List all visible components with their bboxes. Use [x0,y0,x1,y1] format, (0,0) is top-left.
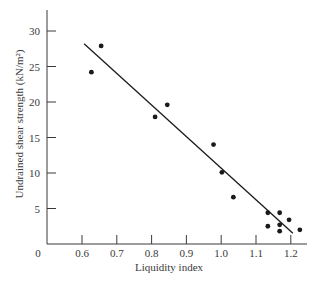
data-point [277,210,282,215]
scatter-chart: 51015202530 0.60.70.80.91.01.11.2 0 Liqu… [0,0,317,285]
y-axis-label: Undrained shear strength (kN/m²) [13,49,26,198]
data-point [265,210,270,215]
y-tick-label: 15 [29,132,41,144]
y-ticks: 51015202530 [29,25,56,215]
y-tick-label: 20 [29,96,41,108]
data-point [277,229,282,234]
data-point [277,222,282,227]
y-tick-label: 5 [35,203,41,215]
data-point [297,227,302,232]
x-tick-label: 0.8 [145,247,159,259]
y-tick-label: 10 [29,167,41,179]
data-point [211,142,216,147]
y-tick-label: 25 [29,61,41,73]
data-point [165,102,170,107]
plot-area: 51015202530 0.60.70.80.91.01.11.2 0 [29,10,307,259]
data-point [219,170,224,175]
x-tick-label: 1.0 [214,247,228,259]
x-tick-label: 1.2 [284,247,298,259]
y-tick-label: 30 [29,25,41,37]
x-tick-label: 0.9 [180,247,194,259]
x-ticks: 0.60.70.80.91.01.11.2 [75,235,298,259]
data-point [287,217,292,222]
data-point [99,44,104,49]
best-fit-line [84,44,293,234]
data-point [153,115,158,120]
fit-line-segment [84,44,293,234]
data-point [265,224,270,229]
data-point [89,70,94,75]
x-tick-label: 0.6 [75,247,89,259]
origin-label: 0 [35,247,41,259]
x-tick-label: 1.1 [249,247,263,259]
data-points [89,44,302,234]
x-axis-label: Liquidity index [135,261,204,273]
x-tick-label: 0.7 [110,247,124,259]
data-point [231,195,236,200]
